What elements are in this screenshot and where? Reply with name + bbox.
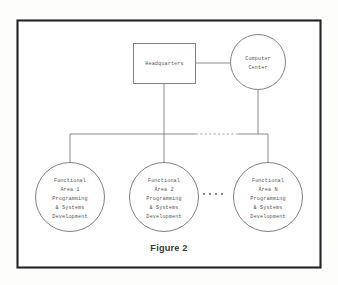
ellipsis-dot-4 (221, 193, 223, 195)
ellipsis-dot-3 (215, 193, 217, 195)
functional-area-1-label-line-1: Functional (54, 178, 86, 184)
computer-center-label-line-1: Computer (245, 56, 271, 62)
functional-area-n-label-line-2: Area N (258, 187, 277, 193)
computer-center-label-line-2: Center (248, 65, 267, 71)
headquarters-label: Headquarters (145, 61, 183, 67)
functional-area-1-label-line-2: Area 1 (60, 187, 79, 193)
functional-area-2-label-line-1: Functional (148, 178, 180, 184)
diagram-canvas: Headquarters Computer Center Functional … (0, 0, 338, 285)
functional-area-1-label-line-3: Programming (52, 196, 87, 202)
functional-area-n-label-line-1: Functional (252, 178, 284, 184)
figure-caption: Figure 2 (150, 243, 187, 253)
functional-area-1-label-line-5: Development (52, 214, 87, 220)
functional-area-2-label-line-2: Area 2 (154, 187, 173, 193)
functional-area-n-label-line-5: Development (250, 214, 285, 220)
ellipsis-dot-2 (209, 193, 211, 195)
functional-area-n-label-line-3: Programming (250, 196, 285, 202)
functional-area-2-label-line-3: Programming (146, 196, 181, 202)
ellipsis-dot-1 (203, 193, 205, 195)
functional-area-n-label-line-4: & Systems (254, 205, 283, 211)
functional-area-2-label-line-5: Development (146, 214, 181, 220)
functional-area-2-label-line-4: & Systems (150, 205, 179, 211)
figure-diagram: Headquarters Computer Center Functional … (0, 0, 338, 285)
functional-area-1-label-line-4: & Systems (56, 205, 85, 211)
